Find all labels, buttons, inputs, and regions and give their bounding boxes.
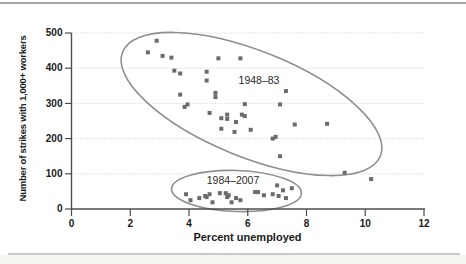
data-point bbox=[213, 91, 217, 95]
data-point bbox=[218, 191, 222, 195]
data-point bbox=[225, 117, 229, 121]
data-point bbox=[172, 69, 176, 73]
bottom-border-rule bbox=[8, 253, 460, 255]
y-tick-label: 400 bbox=[46, 62, 63, 73]
figure-panel: 02468101201002003004005001948–831984–200… bbox=[0, 0, 466, 264]
y-axis-title: Number of strikes with 1,000+ workers bbox=[17, 31, 28, 207]
data-point bbox=[233, 130, 237, 134]
data-point bbox=[290, 186, 294, 190]
data-point bbox=[188, 198, 192, 202]
data-point bbox=[275, 183, 279, 187]
data-point bbox=[243, 114, 247, 118]
y-tick-label: 500 bbox=[46, 27, 63, 38]
series-1948–83 bbox=[146, 39, 373, 181]
data-point bbox=[230, 200, 234, 204]
data-point bbox=[234, 120, 238, 124]
data-point bbox=[183, 105, 187, 109]
data-point bbox=[325, 122, 329, 126]
y-tick-label: 0 bbox=[57, 203, 63, 214]
x-axis-title: Percent unemployed bbox=[71, 231, 424, 243]
y-tick-label: 100 bbox=[46, 168, 63, 179]
data-point bbox=[238, 198, 242, 202]
x-tick-label: 6 bbox=[245, 218, 251, 229]
data-point bbox=[256, 190, 260, 194]
x-tick-label: 2 bbox=[127, 218, 133, 229]
data-point bbox=[208, 111, 212, 115]
data-point bbox=[178, 93, 182, 97]
data-point bbox=[169, 56, 173, 60]
data-point bbox=[271, 137, 275, 141]
data-point bbox=[211, 200, 215, 204]
data-point bbox=[197, 196, 201, 200]
data-point bbox=[281, 188, 285, 192]
data-point bbox=[225, 113, 229, 117]
data-point bbox=[293, 123, 297, 127]
data-point bbox=[277, 194, 281, 198]
data-point bbox=[234, 196, 238, 200]
data-point bbox=[249, 128, 253, 132]
data-point bbox=[284, 89, 288, 93]
data-point bbox=[243, 102, 247, 106]
data-point bbox=[278, 102, 282, 106]
data-point bbox=[155, 39, 159, 43]
data-point bbox=[208, 192, 212, 196]
x-tick-label: 8 bbox=[304, 218, 310, 229]
y-tick-label: 200 bbox=[46, 133, 63, 144]
x-tick-label: 10 bbox=[360, 218, 372, 229]
data-point bbox=[271, 192, 275, 196]
data-point bbox=[213, 95, 217, 99]
era-label: 1984–2007 bbox=[207, 174, 260, 186]
data-point bbox=[343, 171, 347, 175]
data-point bbox=[262, 193, 266, 197]
bottom-margin-strip bbox=[0, 255, 466, 264]
data-point bbox=[178, 71, 182, 75]
gridlines bbox=[72, 33, 425, 174]
data-point bbox=[219, 127, 223, 131]
x-tick-label: 12 bbox=[418, 218, 430, 229]
data-point bbox=[216, 56, 220, 60]
data-point bbox=[238, 56, 242, 60]
x-tick-label: 4 bbox=[186, 218, 192, 229]
era-label: 1948–83 bbox=[239, 74, 280, 86]
data-point bbox=[146, 50, 150, 54]
data-point bbox=[184, 192, 188, 196]
data-point bbox=[284, 196, 288, 200]
data-point bbox=[219, 116, 223, 120]
x-tick-label: 0 bbox=[69, 218, 75, 229]
data-point bbox=[278, 154, 282, 158]
data-point bbox=[205, 70, 209, 74]
data-point bbox=[161, 54, 165, 58]
data-point bbox=[205, 79, 209, 83]
series-1984–2007 bbox=[184, 183, 294, 204]
data-point bbox=[369, 177, 373, 181]
scatter-plot-svg: 02468101201002003004005001948–831984–200… bbox=[0, 0, 466, 264]
y-tick-label: 300 bbox=[46, 98, 63, 109]
data-point bbox=[227, 193, 231, 197]
